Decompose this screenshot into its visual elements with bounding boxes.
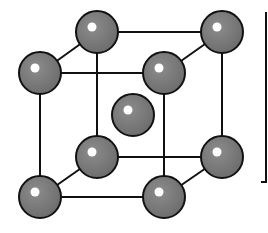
bracket-line <box>261 12 266 182</box>
highlight-icon <box>213 148 222 157</box>
dimension-bracket <box>261 12 266 182</box>
highlight-icon <box>88 148 97 157</box>
atoms <box>19 11 243 218</box>
atom-back-bottom-right <box>201 136 243 178</box>
highlight-icon <box>88 23 97 32</box>
atom-front-bottom-right <box>143 176 185 218</box>
highlight-icon <box>31 64 40 73</box>
atom-back-top-left <box>76 11 118 53</box>
atom-front-top-left <box>19 52 61 94</box>
highlight-icon <box>155 188 164 197</box>
atom-back-top-right <box>201 11 243 53</box>
highlight-icon <box>124 106 133 115</box>
highlight-icon <box>31 188 40 197</box>
highlight-icon <box>213 23 222 32</box>
bcc-crystal-diagram <box>0 0 268 233</box>
atom-front-top-right <box>143 52 185 94</box>
atom-back-bottom-left <box>76 136 118 178</box>
atom-body-center <box>112 94 154 136</box>
atom-front-bottom-left <box>19 176 61 218</box>
highlight-icon <box>155 64 164 73</box>
